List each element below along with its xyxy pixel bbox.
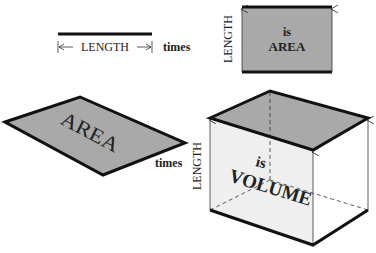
length-segment-group: LENGTH times [58, 34, 191, 54]
area-rectangle-group: LENGTH is AREA [221, 7, 332, 72]
dimension-diagram: LENGTH times LENGTH is AREA AREA times [0, 0, 376, 253]
times-label-2: times [155, 156, 183, 170]
area-is-label: is [283, 25, 291, 39]
volume-box-group: LENGTH is VOLUME [190, 91, 368, 245]
length-label: LENGTH [81, 40, 129, 54]
area-label: AREA [269, 39, 306, 54]
area-side-length-label: LENGTH [221, 15, 235, 63]
box-side-length-label: LENGTH [190, 142, 204, 190]
area-parallelogram-group: AREA times [5, 97, 185, 175]
times-label-1: times [163, 40, 191, 54]
